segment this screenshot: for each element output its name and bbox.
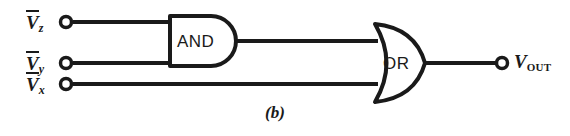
or-gate-label: OR [383, 54, 410, 74]
label-output-vout: VOUT [514, 52, 551, 73]
label-input-vz: Vz [26, 10, 43, 34]
logic-gate-figure: Vz Vy Vx AND OR VOUT (b) [0, 0, 570, 136]
label-vout-subscript: OUT [527, 61, 552, 73]
label-vz-overbar: V [26, 10, 39, 32]
schematic-drawing [0, 0, 570, 136]
terminal-vy [61, 58, 72, 69]
label-vy-overbar: V [26, 51, 39, 73]
label-vx-overbar: V [26, 72, 39, 94]
and-gate-label: AND [177, 32, 214, 52]
figure-caption: (b) [265, 103, 285, 123]
terminal-vz [61, 17, 72, 28]
terminal-vx [61, 79, 72, 90]
label-input-vx: Vx [26, 72, 45, 96]
terminal-vout [497, 58, 508, 69]
label-vx-subscript: x [39, 83, 45, 97]
label-vout-base: V [514, 51, 527, 72]
label-vz-subscript: z [39, 21, 44, 35]
